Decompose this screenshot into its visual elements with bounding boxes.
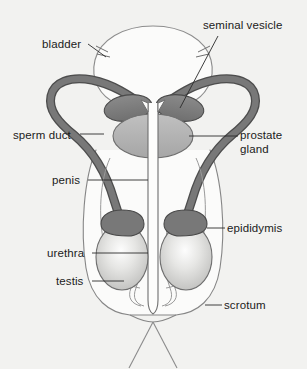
label-prostate-gland: prostate gland [240,128,302,156]
epididymis-left-shape [101,210,144,236]
scrotum-bottom [130,315,176,322]
diagram-canvas [0,0,307,369]
anatomy-diagram-figure: bladder seminal vesicle sperm duct prost… [0,0,307,369]
label-seminal-vesicle: seminal vesicle [203,18,282,32]
bladder-shape [94,26,212,105]
penis-shape [129,322,177,368]
label-scrotum: scrotum [224,298,266,312]
label-bladder: bladder [42,37,81,51]
epididymis-right-shape [164,210,207,236]
label-epididymis: epididymis [227,221,282,235]
label-sperm-duct: sperm duct [13,128,71,142]
label-testis: testis [56,274,83,288]
label-urethra: urethra [47,246,84,260]
label-penis: penis [52,173,80,187]
urethra-shape [148,103,158,314]
